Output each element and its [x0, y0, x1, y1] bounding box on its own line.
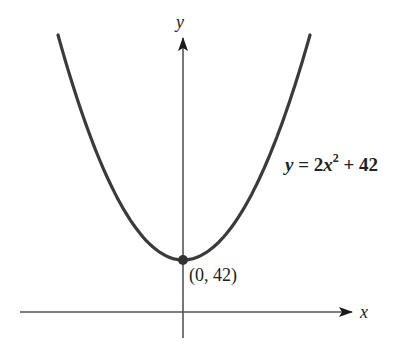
parabola-curve	[58, 35, 310, 260]
vertex-label: (0, 42)	[189, 265, 237, 286]
parabola-plot	[0, 0, 409, 359]
equation-x: x	[323, 154, 333, 175]
equation-tail: + 42	[339, 154, 378, 175]
y-axis-label: y	[176, 12, 184, 33]
equation-mid: = 2	[293, 154, 323, 175]
x-axis-label: x	[360, 302, 368, 323]
equation-label: y = 2x2 + 42	[285, 153, 378, 176]
vertex-point	[178, 255, 188, 265]
equation-exponent: 2	[333, 151, 339, 165]
